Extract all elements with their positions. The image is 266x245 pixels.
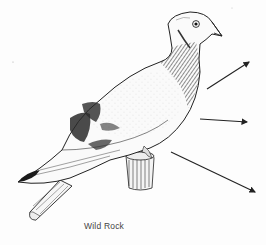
figure-caption: Wild Rock (84, 221, 124, 231)
pigeon-tail (30, 180, 72, 220)
pigeon-body (18, 12, 222, 183)
pigeon-illustration (0, 0, 266, 245)
arrow-lower-right (171, 152, 255, 192)
figure-canvas: Wild Rock (0, 0, 266, 245)
arrow-middle-right (200, 119, 247, 122)
arrow-upper-right (207, 62, 249, 89)
